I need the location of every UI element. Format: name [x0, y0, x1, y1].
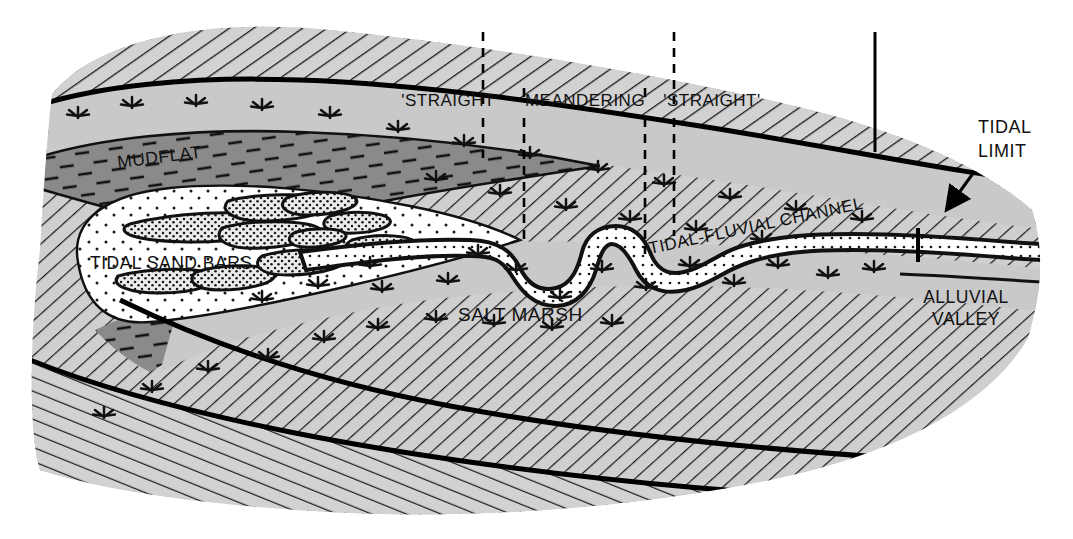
zone-label-meandering: MEANDERING	[525, 91, 645, 110]
label-tidal-sand-bars: TIDAL SAND BARS	[90, 253, 252, 273]
sand-bar	[289, 229, 346, 247]
zone-label-straight-inner: 'STRAIGHT'	[663, 91, 760, 110]
figure-canvas: 'STRAIGHT' MEANDERING 'STRAIGHT' MUDFLAT…	[0, 0, 1073, 539]
zone-label-straight-outer: 'STRAIGHT'	[401, 91, 498, 110]
label-alluvial-valley-line1: ALLUVIAL	[923, 287, 1009, 307]
label-alluvial-valley-line2: VALLEY	[932, 309, 1000, 329]
label-tidal-limit-line2: LIMIT	[978, 141, 1027, 161]
label-tidal-limit-line1: TIDAL	[978, 117, 1032, 137]
label-salt-marsh: SALT MARSH	[458, 304, 583, 325]
estuary-diagram: 'STRAIGHT' MEANDERING 'STRAIGHT' MUDFLAT…	[0, 0, 1073, 539]
